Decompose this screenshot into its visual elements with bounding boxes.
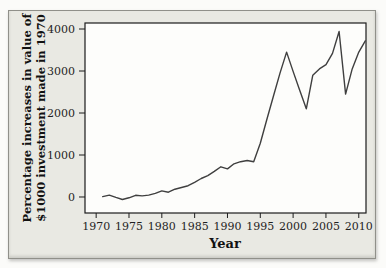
x-tick-label: 1995	[246, 220, 274, 233]
y-axis-title-line1: Percentage increases in value of	[20, 13, 34, 223]
y-tick-label: 2000	[47, 107, 75, 120]
x-tick-label: 1975	[115, 220, 143, 233]
y-tick-label: 1000	[47, 149, 75, 162]
line-chart: 0100020003000400019701975198019851990199…	[9, 11, 377, 260]
x-tick-label: 1990	[213, 220, 241, 233]
y-tick-label: 0	[68, 191, 75, 204]
x-tick-label: 2000	[279, 220, 307, 233]
figure-panel: 0100020003000400019701975198019851990199…	[8, 10, 376, 259]
x-tick-label: 1980	[148, 220, 176, 233]
x-tick-label: 1985	[181, 220, 209, 233]
x-tick-label: 2005	[312, 220, 340, 233]
x-tick-label: 2010	[345, 220, 373, 233]
y-tick-label: 4000	[47, 23, 75, 36]
plot-frame	[85, 23, 366, 213]
x-tick-label: 1970	[82, 220, 110, 233]
y-tick-label: 3000	[47, 65, 75, 78]
x-axis-title: Year	[208, 236, 241, 251]
y-axis-title-line2: $1000 investment made in 1970	[34, 14, 48, 221]
